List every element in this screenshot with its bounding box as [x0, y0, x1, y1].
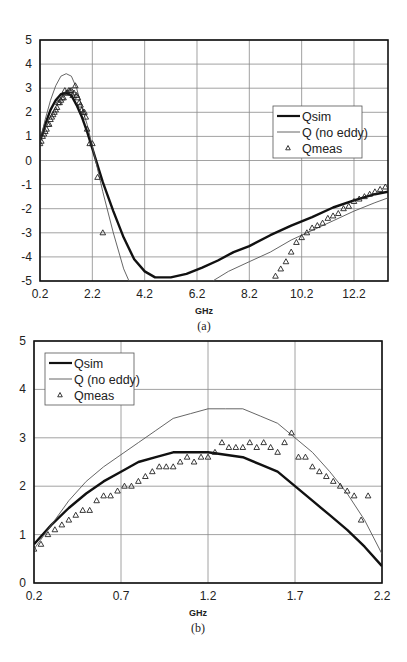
- gridlines: [40, 40, 388, 281]
- triangle-marker: [317, 469, 323, 474]
- legend-label: Qsim: [74, 357, 103, 371]
- triangle-marker: [283, 259, 289, 264]
- triangle-marker: [101, 493, 107, 498]
- triangle-marker: [73, 512, 79, 517]
- y-tick-label: 5: [25, 33, 32, 47]
- y-tick-label: 2: [19, 479, 26, 493]
- legend-label: Q (no eddy): [302, 126, 368, 140]
- triangle-marker: [278, 266, 284, 271]
- y-tick-label: -2: [21, 202, 32, 216]
- triangle-marker: [108, 493, 114, 498]
- x-tick-label: 1.2: [200, 589, 217, 603]
- triangle-marker: [296, 454, 302, 459]
- x-tick-label: 10.2: [290, 287, 314, 301]
- y-tick-label: 3: [19, 431, 26, 445]
- triangle-marker: [315, 223, 321, 228]
- triangle-marker: [191, 459, 197, 464]
- x-tick-label: 0.7: [113, 589, 130, 603]
- chart-b: 5432100.20.71.21.72.2GHz(b)QsimQ (no edd…: [19, 334, 390, 635]
- x-tick-label: 8.2: [241, 287, 258, 301]
- triangle-marker: [156, 464, 162, 469]
- chart-a: 543210-1-2-3-4-50.22.24.26.28.210.212.2G…: [21, 33, 388, 333]
- y-tick-label: 2: [25, 105, 32, 119]
- series-qmeas: [31, 430, 371, 551]
- triangle-marker: [261, 440, 267, 445]
- triangle-marker: [351, 493, 357, 498]
- y-tick-label: 0: [19, 576, 26, 590]
- triangle-marker: [240, 444, 246, 449]
- triangle-marker: [87, 507, 93, 512]
- figure-caption: (b): [191, 621, 205, 635]
- triangle-marker: [288, 249, 294, 254]
- triangle-marker: [273, 273, 279, 278]
- triangle-marker: [365, 493, 371, 498]
- x-tick-label: 6.2: [189, 287, 206, 301]
- triangle-marker: [330, 213, 336, 218]
- y-tick-label: 3: [25, 81, 32, 95]
- triangle-marker: [94, 498, 100, 503]
- triangle-marker: [289, 430, 295, 435]
- triangle-marker: [129, 483, 135, 488]
- triangle-marker: [59, 522, 65, 527]
- y-tick-label: 5: [19, 334, 26, 348]
- triangle-marker: [219, 440, 225, 445]
- x-tick-label: 2.2: [374, 589, 391, 603]
- triangle-marker: [325, 215, 331, 220]
- legend-label: Qsim: [302, 110, 331, 124]
- y-tick-label: -3: [21, 226, 32, 240]
- legend-label: Qmeas: [74, 389, 114, 403]
- x-tick-label: 2.2: [84, 287, 101, 301]
- triangle-marker: [198, 454, 204, 459]
- x-axis-label: GHz: [195, 306, 214, 316]
- y-tick-label: 4: [19, 382, 26, 396]
- x-tick-label: 4.2: [136, 287, 153, 301]
- x-tick-label: 0.2: [26, 589, 43, 603]
- triangle-marker: [52, 527, 58, 532]
- triangle-marker: [170, 464, 176, 469]
- triangle-marker: [294, 239, 300, 244]
- triangle-marker: [254, 444, 260, 449]
- triangle-marker: [309, 225, 315, 230]
- triangle-marker: [268, 444, 274, 449]
- triangle-marker: [136, 478, 142, 483]
- triangle-marker: [177, 459, 183, 464]
- y-tick-label: -5: [21, 274, 32, 288]
- legend: QsimQ (no eddy)Qmeas: [45, 353, 140, 405]
- triangle-marker: [100, 230, 106, 235]
- triangle-marker: [324, 474, 330, 479]
- y-tick-label: -1: [21, 178, 32, 192]
- triangle-marker: [143, 474, 149, 479]
- x-tick-label: 0.2: [32, 287, 49, 301]
- triangle-marker: [163, 464, 169, 469]
- y-tick-label: -4: [21, 250, 32, 264]
- triangle-marker: [303, 454, 309, 459]
- triangle-marker: [282, 440, 288, 445]
- triangle-marker: [335, 211, 341, 216]
- triangle-marker: [184, 454, 190, 459]
- triangle-marker: [226, 444, 232, 449]
- triangle-marker: [337, 483, 343, 488]
- triangle-marker: [320, 220, 326, 225]
- legend: QsimQ (no eddy)Qmeas: [273, 106, 368, 158]
- y-tick-label: 0: [25, 154, 32, 168]
- triangle-marker: [247, 440, 253, 445]
- triangle-marker: [122, 483, 128, 488]
- triangle-marker: [377, 186, 383, 191]
- y-tick-label: 4: [25, 57, 32, 71]
- y-tick-label: 1: [25, 129, 32, 143]
- legend-label: Qmeas: [302, 142, 342, 156]
- triangle-marker: [275, 449, 281, 454]
- x-tick-label: 12.2: [342, 287, 366, 301]
- figure-caption: (a): [197, 319, 210, 333]
- x-axis-label: GHz: [189, 608, 208, 618]
- y-tick-label: 1: [19, 528, 26, 542]
- triangle-marker: [115, 488, 121, 493]
- triangle-marker: [150, 469, 156, 474]
- figure: 543210-1-2-3-4-50.22.24.26.28.210.212.2G…: [0, 0, 407, 662]
- triangle-marker: [233, 444, 239, 449]
- x-tick-label: 1.7: [287, 589, 304, 603]
- triangle-marker: [66, 517, 72, 522]
- triangle-marker: [80, 507, 86, 512]
- legend-label: Q (no eddy): [74, 373, 140, 387]
- triangle-marker: [310, 464, 316, 469]
